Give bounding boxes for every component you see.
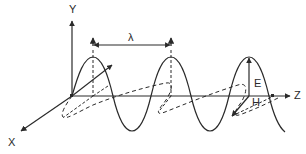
origin-marker [70, 94, 73, 97]
x-axis-label: X [8, 137, 15, 148]
wavelength-label: λ [128, 32, 134, 43]
z-marker [271, 94, 274, 97]
x-axis [21, 96, 72, 131]
magnetic-field-label: H [252, 97, 260, 108]
magnetic-field-wave [62, 83, 280, 118]
electric-field-label: E [254, 78, 261, 89]
y-axis-label: Y [69, 4, 76, 15]
h-dash-top [93, 86, 108, 96]
z-axis-label: Z [294, 90, 301, 101]
electric-field-wave [72, 57, 285, 132]
h-arrow-1 [72, 65, 112, 96]
h-dash-2 [160, 96, 171, 110]
h-vector [232, 96, 249, 116]
